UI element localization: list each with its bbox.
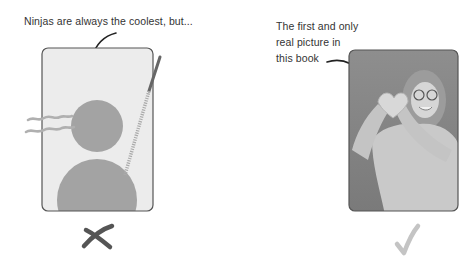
woman-photo: [349, 50, 460, 215]
ninja-body: [57, 159, 137, 241]
ninja-illustration: [26, 48, 160, 241]
ninja-head: [71, 100, 123, 152]
checkmark-icon: [397, 226, 418, 253]
cross-icon: [84, 226, 112, 247]
illustration-canvas: [0, 0, 476, 266]
